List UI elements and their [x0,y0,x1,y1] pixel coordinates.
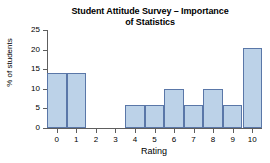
x-tick [96,129,97,133]
x-tick [194,129,195,133]
x-tick [233,129,234,133]
y-axis-label: % of students [5,33,14,93]
bar [223,105,243,129]
chart-figure: Student Attitude Survey – Importance of … [0,0,270,163]
x-tick-label: 0 [47,135,67,144]
x-tick [115,129,116,133]
x-tick-label: 3 [105,135,125,144]
y-tick-label: 0 [36,123,40,132]
bar [184,105,204,129]
x-tick-label: 5 [145,135,165,144]
x-tick-label: 10 [242,135,262,144]
x-tick [155,129,156,133]
y-tick: 15 [43,69,47,70]
y-tick: 25 [43,30,47,31]
bar [145,105,165,129]
x-tick-label: 7 [184,135,204,144]
bar [164,89,184,128]
x-tick [57,129,58,133]
y-tick-label: 5 [36,103,40,112]
y-tick-label: 25 [31,25,40,34]
x-tick [213,129,214,133]
x-tick-label: 6 [164,135,184,144]
x-tick [135,129,136,133]
x-tick-label: 4 [125,135,145,144]
x-tick [252,129,253,133]
bar [125,105,145,129]
chart-title: Student Attitude Survey – Importance of … [34,6,266,28]
bar [203,89,223,128]
bar [47,73,67,128]
bar [67,73,87,128]
plot-area: 0510152025 012345678910 [47,30,262,129]
y-tick: 20 [43,50,47,51]
x-tick-label: 8 [203,135,223,144]
y-tick: 0 [43,128,47,129]
x-axis-label: Rating [46,146,262,156]
y-tick-label: 10 [31,84,40,93]
x-tick-label: 1 [66,135,86,144]
y-tick-label: 20 [31,45,40,54]
bar [243,48,263,128]
x-tick-label: 2 [86,135,106,144]
x-tick [76,129,77,133]
x-tick-label: 9 [223,135,243,144]
x-tick [174,129,175,133]
y-tick-label: 15 [31,64,40,73]
